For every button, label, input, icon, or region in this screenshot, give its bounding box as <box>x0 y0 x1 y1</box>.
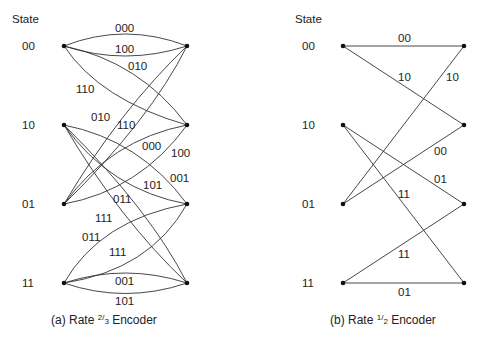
state-label-10: 10 <box>22 119 35 131</box>
edge-label: 111 <box>109 246 126 258</box>
node-a-left-00 <box>62 44 67 49</box>
edge-label: 100 <box>171 147 190 159</box>
state-label-00: 00 <box>302 40 315 52</box>
edge-11-01 <box>343 204 464 283</box>
edge-label: 11 <box>398 188 410 200</box>
edge-label: 00 <box>434 145 447 157</box>
state-label-10: 10 <box>302 119 315 131</box>
node-b-right-01 <box>462 202 467 207</box>
state-header: State <box>12 13 39 25</box>
edge-label: 000 <box>115 22 134 34</box>
state-header: State <box>295 13 322 25</box>
edge-label: 101 <box>143 179 162 191</box>
edge-label: 10 <box>446 71 459 83</box>
node-b-left-11 <box>341 281 346 286</box>
edge-label: 00 <box>398 32 411 44</box>
edge-label: 10 <box>398 71 411 83</box>
edge-label: 001 <box>170 172 189 184</box>
node-b-left-01 <box>341 202 346 207</box>
state-label-01: 01 <box>22 198 35 210</box>
edge-label: 001 <box>115 275 134 287</box>
trellis-figure: State 00 10 01 11 <box>0 0 481 341</box>
edge-label: 011 <box>82 231 100 243</box>
edge-label: 11 <box>398 248 410 260</box>
trellis-rate-2-3: State 00 10 01 11 <box>12 13 190 327</box>
edge-label: 01 <box>434 173 447 185</box>
node-a-right-00 <box>185 44 190 49</box>
edge-label: 110 <box>117 119 135 131</box>
caption-b: (b) Rate 1/2 Encoder <box>330 313 436 327</box>
node-b-right-11 <box>462 281 467 286</box>
edge-label: 010 <box>91 111 110 123</box>
edge-label: 101 <box>115 295 134 307</box>
caption-a: (a) Rate 2/3 Encoder <box>51 313 157 327</box>
node-b-right-00 <box>462 44 467 49</box>
edge-00-10 <box>343 46 464 125</box>
edge-label: 000 <box>142 140 161 152</box>
state-label-00: 00 <box>22 40 35 52</box>
node-a-left-10 <box>62 123 67 128</box>
node-a-right-10 <box>185 123 190 128</box>
trellis-rate-1-2: State 00 10 01 11 00 10 10 00 01 11 11 0… <box>295 13 466 327</box>
state-label-11: 11 <box>22 277 34 289</box>
node-a-right-01 <box>185 202 190 207</box>
edge-label: 01 <box>398 286 411 298</box>
node-a-left-01 <box>62 202 67 207</box>
edge-label: 011 <box>113 193 131 205</box>
edge-label: 100 <box>115 43 134 55</box>
edge-label: 110 <box>76 83 94 95</box>
edge-label: 010 <box>128 60 147 72</box>
node-a-right-11 <box>185 281 190 286</box>
edge-label: 111 <box>95 212 112 224</box>
node-b-right-10 <box>462 123 467 128</box>
state-label-01: 01 <box>302 198 315 210</box>
node-b-left-00 <box>341 44 346 49</box>
node-b-left-10 <box>341 123 346 128</box>
state-label-11: 11 <box>302 277 314 289</box>
node-a-left-11 <box>62 281 67 286</box>
